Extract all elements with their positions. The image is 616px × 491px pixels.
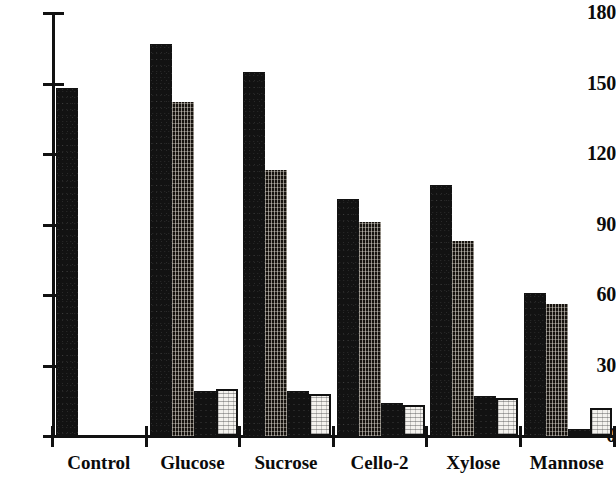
bar bbox=[381, 403, 403, 436]
bar bbox=[452, 241, 474, 436]
bar-chart: 0306090120150180 ControlGlucoseSucroseCe… bbox=[0, 0, 616, 491]
bar bbox=[150, 44, 172, 436]
bar bbox=[546, 304, 568, 436]
bar bbox=[265, 170, 287, 436]
bar bbox=[430, 185, 452, 436]
bar bbox=[194, 391, 216, 436]
bar bbox=[496, 398, 518, 436]
bar bbox=[568, 429, 590, 436]
bar bbox=[216, 389, 238, 436]
bar bbox=[403, 405, 425, 436]
bar bbox=[590, 408, 612, 436]
bar bbox=[474, 396, 496, 436]
plot-area bbox=[0, 0, 616, 491]
bar bbox=[524, 293, 546, 436]
bar bbox=[243, 72, 265, 436]
bar bbox=[359, 222, 381, 436]
bar bbox=[337, 199, 359, 436]
bar bbox=[56, 88, 78, 436]
bar bbox=[309, 394, 331, 436]
bar bbox=[172, 102, 194, 436]
bar bbox=[287, 391, 309, 436]
